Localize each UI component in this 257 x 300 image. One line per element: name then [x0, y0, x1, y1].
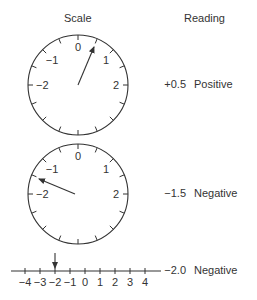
dial-label-neg2: −2 [36, 188, 49, 200]
dial-negative: 0 1 2 −1 −2 [28, 144, 128, 244]
number-line-tick-label: 4 [142, 276, 148, 288]
number-line-tick-label: −4 [19, 276, 32, 288]
scales-diagram: 0 1 2 −1 −2 0 1 2 −1 −2 −4−3−2−101234 [0, 0, 257, 300]
dial-label-neg1: −1 [46, 163, 59, 175]
reading-sign: Negative [194, 187, 237, 199]
number-line-tick-label: −3 [34, 276, 47, 288]
dial-label-2: 2 [113, 79, 119, 91]
reading-row-1: +0.5Positive [152, 78, 233, 90]
number-line-tick-label: 2 [112, 276, 118, 288]
reading-row-2: −1.5Negative [152, 187, 237, 199]
dial-label-0: 0 [75, 150, 81, 162]
reading-sign: Positive [194, 78, 233, 90]
reading-value: −1.5 [152, 187, 186, 199]
dial-label-2: 2 [113, 188, 119, 200]
number-line-tick-label: 1 [97, 276, 103, 288]
number-line-tick-label: −1 [64, 276, 77, 288]
dial-positive: 0 1 2 −1 −2 [28, 35, 128, 135]
reading-value: −2.0 [152, 264, 186, 276]
dial-label-1: 1 [103, 54, 109, 66]
number-line-tick-label: −2 [49, 276, 62, 288]
number-line-tick-label: 0 [82, 276, 88, 288]
reading-sign: Negative [194, 264, 237, 276]
number-line: −4−3−2−101234 [11, 253, 161, 288]
dial-label-neg1: −1 [46, 54, 59, 66]
dial-label-neg2: −2 [36, 79, 49, 91]
dial-label-0: 0 [75, 41, 81, 53]
dial-label-1: 1 [103, 163, 109, 175]
reading-row-3: −2.0Negative [152, 264, 237, 276]
reading-value: +0.5 [152, 78, 186, 90]
number-line-tick-label: 3 [127, 276, 133, 288]
